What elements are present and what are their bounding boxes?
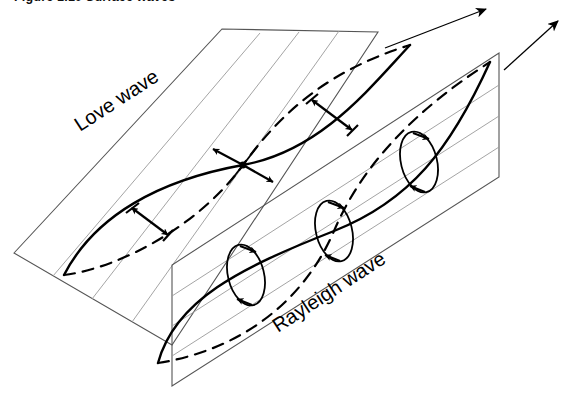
surface-wave-diagram: Love wave: [0, 0, 564, 394]
rayleigh-wave-propagation-arrow: [504, 21, 558, 70]
love-wave-propagation-arrow: [385, 9, 486, 48]
node-point: [240, 162, 247, 169]
figure-container: Figure 1.10 Surface waves: [0, 0, 564, 394]
